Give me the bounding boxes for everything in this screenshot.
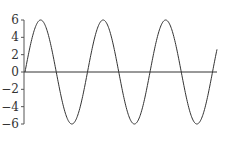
y-tick-label: −6 bbox=[1, 117, 19, 131]
y-tick-label: 2 bbox=[11, 48, 19, 62]
y-tick-label: 6 bbox=[11, 13, 19, 27]
y-tick-label: 0 bbox=[11, 65, 19, 79]
y-axis bbox=[21, 20, 24, 124]
y-tick-label: 4 bbox=[11, 30, 19, 44]
y-tick-label: −4 bbox=[1, 100, 19, 114]
y-tick-labels: 6420−2−4−6 bbox=[1, 13, 19, 131]
y-tick-label: −2 bbox=[1, 82, 19, 96]
sine-chart: 6420−2−4−6 bbox=[0, 0, 226, 142]
